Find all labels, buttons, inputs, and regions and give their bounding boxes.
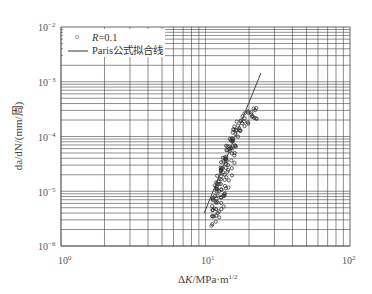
fatigue-crack-growth-chart: R=0.1 Paris公式拟合线 100 101 102 10−2 10−3 1…	[0, 0, 372, 294]
data-point	[214, 220, 217, 223]
legend-label-paris: Paris公式拟合线	[92, 44, 164, 56]
scatter-points	[210, 106, 258, 227]
data-point	[233, 125, 236, 128]
data-point	[233, 161, 236, 164]
grid-lines	[61, 27, 350, 246]
x-tick-label-1: 100	[58, 254, 72, 266]
y-axis-label: da/dN/(mm/周)	[12, 101, 25, 170]
y-tick-label-1e-2: 10−2	[38, 21, 56, 33]
data-point	[220, 201, 223, 204]
y-tick-label-1e-4: 10−4	[38, 131, 56, 143]
data-point	[227, 179, 230, 182]
y-tick-label-1e-5: 10−5	[38, 186, 56, 198]
x-axis-label: ΔK/MPa·m1/2	[178, 273, 238, 285]
data-point	[225, 176, 228, 179]
y-tick-label-1e-3: 10−3	[38, 76, 56, 88]
data-point	[235, 120, 238, 123]
legend: R=0.1 Paris公式拟合线	[63, 29, 165, 57]
data-point	[218, 216, 221, 219]
y-tick-label-1e-6: 10−6	[38, 240, 56, 252]
data-point	[243, 124, 246, 127]
data-point	[230, 167, 233, 170]
data-point	[230, 159, 233, 162]
x-tick-label-10: 101	[201, 254, 215, 266]
legend-label-r: R=0.1	[91, 32, 117, 43]
data-point	[230, 174, 233, 177]
data-point	[211, 205, 214, 208]
x-tick-label-100: 102	[342, 254, 356, 266]
